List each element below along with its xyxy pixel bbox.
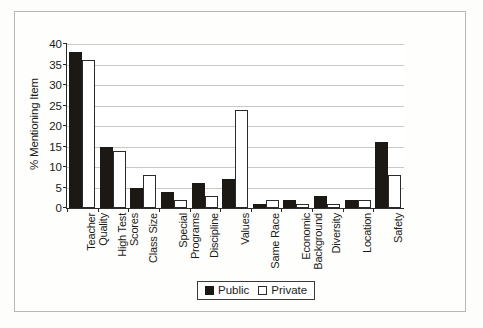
bar-group: [128, 44, 159, 208]
x-axis-label: TeacherQuality: [86, 213, 109, 293]
bar-private: [174, 200, 187, 208]
x-axis-tick-mark: [67, 208, 68, 212]
x-axis-tick-mark: [220, 208, 221, 212]
x-axis-tick-mark: [98, 208, 99, 212]
bar-private: [205, 196, 218, 208]
x-axis-tick-mark: [281, 208, 282, 212]
x-axis-tick-mark: [128, 208, 129, 212]
x-axis-label-line: Diversity: [331, 213, 343, 293]
chart-legend: Public Private: [197, 281, 315, 300]
chart-figure: % Mentioning Item 0510152025303540 Teach…: [0, 0, 483, 328]
bar-public: [314, 196, 327, 208]
y-axis-tick-label: 30: [49, 79, 62, 91]
y-axis-tick-label: 10: [49, 161, 62, 173]
x-axis-label: Safety: [393, 213, 405, 293]
y-axis-tick-label: 20: [49, 120, 62, 132]
x-axis-tick-mark: [190, 208, 191, 212]
bar-public: [253, 204, 266, 208]
bar-group: [281, 44, 312, 208]
x-axis-label-line: Location: [362, 213, 374, 293]
bar-group: [159, 44, 190, 208]
bar-group: [98, 44, 129, 208]
bar-private: [143, 175, 156, 208]
bar-private: [235, 110, 248, 208]
x-axis-label-line: Class Size: [148, 213, 160, 293]
bar-group: [67, 44, 98, 208]
legend-swatch-private-icon: [258, 286, 267, 295]
x-axis-label-line: Quality: [98, 213, 110, 293]
bar-group: [373, 44, 404, 208]
bar-private: [358, 200, 371, 208]
legend-label-public: Public: [218, 284, 249, 296]
bar-group: [220, 44, 251, 208]
bar-group: [190, 44, 221, 208]
y-axis-tick-label: 35: [49, 59, 62, 71]
x-axis-tick-mark: [159, 208, 160, 212]
legend-label-private: Private: [271, 284, 307, 296]
y-axis-tick-label: 25: [49, 100, 62, 112]
x-axis-label-line: High Test: [117, 213, 129, 293]
legend-swatch-public-icon: [205, 286, 214, 295]
y-axis-tick-label: 5: [56, 182, 62, 194]
y-axis-tick-label: 15: [49, 141, 62, 153]
x-axis-tick-mark: [251, 208, 252, 212]
bar-private: [113, 151, 126, 208]
bar-private: [327, 204, 340, 208]
bar-public: [130, 188, 143, 209]
legend-entry-public: Public: [205, 284, 249, 296]
y-axis-tick-label: 0: [56, 202, 62, 214]
y-axis-tick-label: 40: [49, 38, 62, 50]
bar-group: [312, 44, 343, 208]
x-axis-label-line: Scores: [128, 213, 140, 293]
bar-public: [100, 147, 113, 209]
x-axis-tick-mark: [343, 208, 344, 212]
x-axis-label: Location: [362, 213, 374, 293]
plot-area: 0510152025303540: [66, 44, 404, 209]
x-axis-tick-mark: [312, 208, 313, 212]
bar-public: [161, 192, 174, 208]
bar-private: [388, 175, 401, 208]
bar-public: [69, 52, 82, 208]
x-axis-label: Class Size: [148, 213, 160, 293]
y-axis-title: % Mentioning Item: [28, 59, 40, 189]
bar-public: [345, 200, 358, 208]
bar-public: [375, 142, 388, 208]
bar-private: [82, 60, 95, 208]
x-axis-label-line: Special: [178, 213, 190, 293]
x-axis-label: Diversity: [331, 213, 343, 293]
bar-public: [283, 200, 296, 208]
bar-public: [192, 183, 205, 208]
bars-layer: [67, 44, 404, 208]
x-axis-tick-mark: [373, 208, 374, 212]
x-axis-label: High TestScores: [117, 213, 140, 293]
legend-entry-private: Private: [258, 284, 307, 296]
bar-public: [222, 179, 235, 208]
bar-private: [266, 200, 279, 208]
x-axis-label-line: Safety: [393, 213, 405, 293]
bar-group: [251, 44, 282, 208]
bar-group: [343, 44, 374, 208]
x-axis-labels: TeacherQualityHigh TestScoresClass SizeS…: [66, 213, 404, 283]
bar-private: [296, 204, 309, 208]
